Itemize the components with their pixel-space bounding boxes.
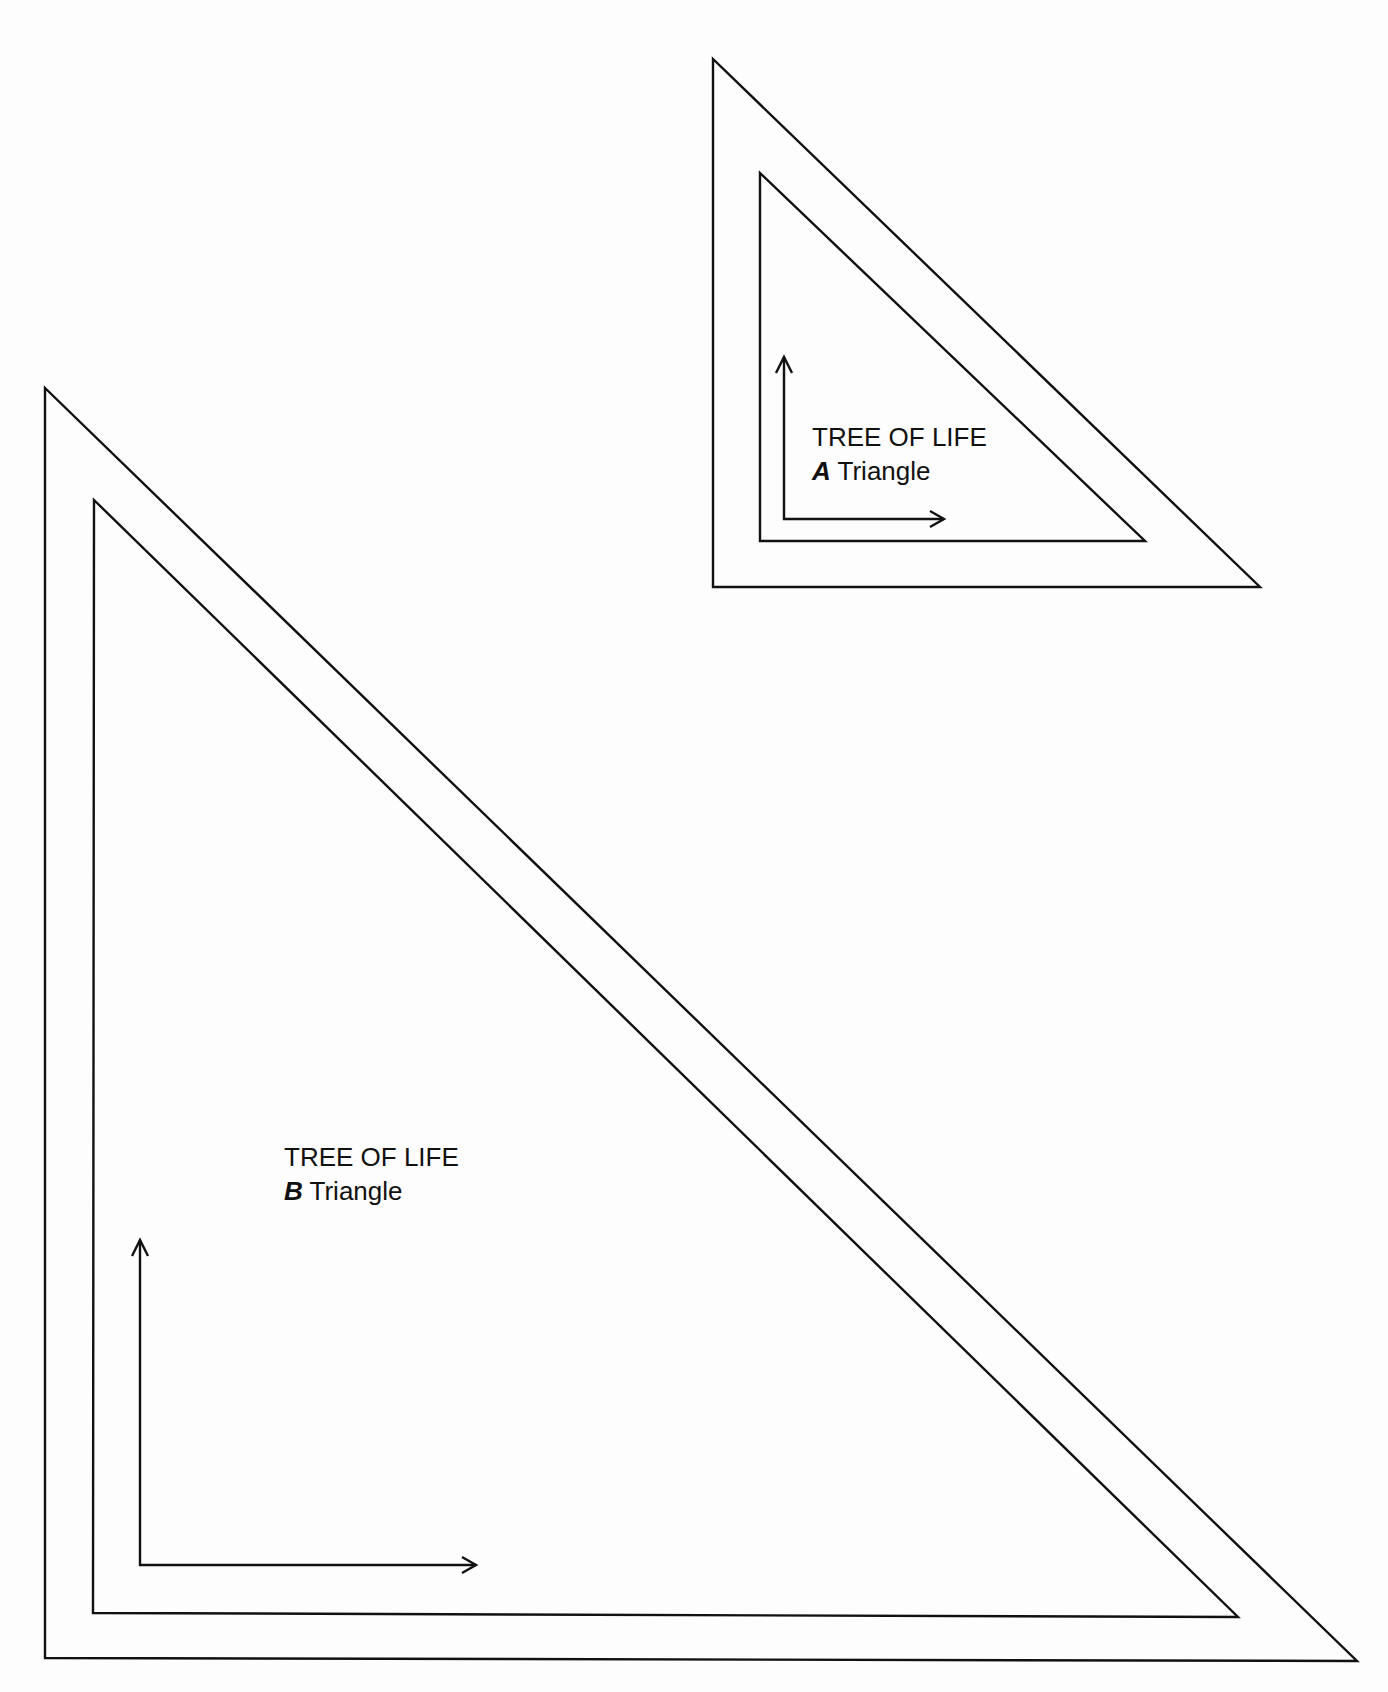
triangle-b-label: TREE OF LIFE B Triangle bbox=[284, 1140, 459, 1208]
triangle-a-outer bbox=[713, 59, 1260, 587]
triangle-a-letter: A bbox=[812, 456, 831, 486]
triangle-templates bbox=[0, 0, 1388, 1692]
triangle-b bbox=[45, 388, 1357, 1661]
triangle-b-inner bbox=[93, 500, 1238, 1617]
grain-arrow-b bbox=[140, 1240, 476, 1565]
triangle-a-suffix: Triangle bbox=[838, 456, 931, 486]
triangle-b-subtitle: B Triangle bbox=[284, 1174, 459, 1208]
triangle-b-letter: B bbox=[284, 1176, 303, 1206]
triangle-a bbox=[713, 59, 1260, 587]
triangle-b-title: TREE OF LIFE bbox=[284, 1140, 459, 1174]
triangle-a-title: TREE OF LIFE bbox=[812, 420, 987, 454]
triangle-a-subtitle: A Triangle bbox=[812, 454, 987, 488]
triangle-b-suffix: Triangle bbox=[310, 1176, 403, 1206]
triangle-a-label: TREE OF LIFE A Triangle bbox=[812, 420, 987, 488]
triangle-b-outer bbox=[45, 388, 1357, 1661]
